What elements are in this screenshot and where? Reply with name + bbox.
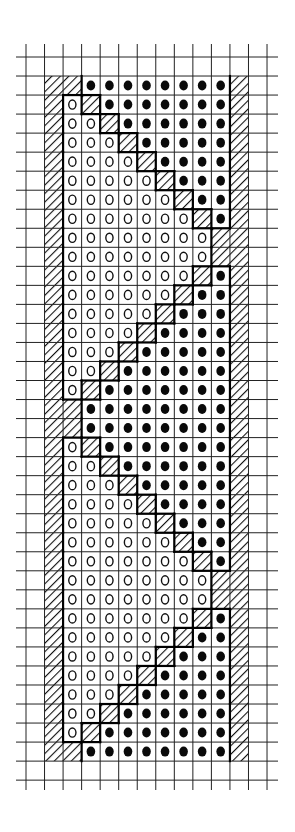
filled-dot-icon <box>179 309 188 319</box>
hatch-cell <box>156 647 175 666</box>
hatch-cell <box>45 133 64 152</box>
open-circle-icon <box>69 252 76 261</box>
hatch-cell <box>230 457 249 476</box>
hatch-cell <box>45 457 64 476</box>
filled-dot-icon <box>198 290 207 300</box>
open-circle-icon <box>106 157 113 166</box>
hatch-cell <box>230 685 249 704</box>
hatch-cell <box>119 685 138 704</box>
open-circle-icon <box>87 614 94 623</box>
filled-dot-icon <box>105 100 114 110</box>
open-circle-icon <box>143 595 150 604</box>
filled-dot-icon <box>216 747 225 757</box>
filled-dot-icon <box>142 347 151 357</box>
hatch-cell <box>193 209 212 228</box>
filled-dot-icon <box>198 328 207 338</box>
filled-dot-icon <box>124 747 133 757</box>
filled-dot-icon <box>161 81 170 91</box>
open-circle-icon <box>106 347 113 356</box>
filled-dot-icon <box>161 100 170 110</box>
filled-dot-icon <box>216 271 225 281</box>
open-circle-icon <box>143 271 150 280</box>
hatch-cell <box>119 133 138 152</box>
filled-dot-icon <box>142 366 151 376</box>
open-circle-icon <box>69 290 76 299</box>
filled-dot-icon <box>198 651 207 661</box>
hatch-cell <box>45 666 64 685</box>
open-circle-icon <box>106 500 113 509</box>
filled-dot-icon <box>179 176 188 186</box>
open-circle-icon <box>180 271 187 280</box>
filled-dot-icon <box>216 176 225 186</box>
filled-dot-icon <box>216 670 225 680</box>
hatch-cell <box>45 152 64 171</box>
open-circle-icon <box>69 195 76 204</box>
open-circle-icon <box>69 633 76 642</box>
hatch-cell <box>137 495 156 514</box>
hatch-cell <box>174 533 193 552</box>
hatch-cell <box>45 685 64 704</box>
open-circle-icon <box>199 595 206 604</box>
filled-dot-icon <box>179 518 188 528</box>
open-circle-icon <box>69 614 76 623</box>
filled-dot-icon <box>179 119 188 129</box>
open-circle-icon <box>124 233 131 242</box>
hatch-cell <box>100 114 119 133</box>
filled-dot-icon <box>87 423 96 433</box>
filled-dot-icon <box>198 100 207 110</box>
open-circle-icon <box>124 633 131 642</box>
filled-dot-icon <box>179 100 188 110</box>
filled-dot-icon <box>124 442 133 452</box>
open-circle-icon <box>106 690 113 699</box>
open-circle-icon <box>69 652 76 661</box>
hatch-cell <box>45 361 64 380</box>
hatch-cell <box>156 171 175 190</box>
open-circle-icon <box>69 347 76 356</box>
open-circle-icon <box>161 576 168 585</box>
open-circle-icon <box>87 671 94 680</box>
hatch-cell <box>230 533 249 552</box>
filled-dot-icon <box>161 690 170 700</box>
filled-dot-icon <box>161 499 170 509</box>
open-circle-icon <box>87 709 94 718</box>
hatch-cell <box>137 666 156 685</box>
hatch-cell <box>45 609 64 628</box>
open-circle-icon <box>143 633 150 642</box>
open-circle-icon <box>143 614 150 623</box>
hatch-cell <box>156 514 175 533</box>
filled-dot-icon <box>124 385 133 395</box>
open-circle-icon <box>180 214 187 223</box>
open-circle-icon <box>106 633 113 642</box>
open-circle-icon <box>106 328 113 337</box>
filled-dot-icon <box>87 747 96 757</box>
hatch-cell <box>137 323 156 342</box>
filled-dot-icon <box>216 690 225 700</box>
filled-dot-icon <box>142 138 151 148</box>
open-circle-icon <box>199 576 206 585</box>
open-circle-icon <box>106 576 113 585</box>
open-circle-icon <box>69 366 76 375</box>
filled-dot-icon <box>179 690 188 700</box>
open-circle-icon <box>69 576 76 585</box>
hatch-cell <box>230 590 249 609</box>
hatch-cell <box>63 742 82 761</box>
filled-dot-icon <box>179 499 188 509</box>
hatch-cell <box>45 419 64 438</box>
hatch-cell <box>211 228 230 247</box>
hatch-cell <box>230 361 249 380</box>
open-circle-icon <box>199 252 206 261</box>
open-circle-icon <box>124 576 131 585</box>
open-circle-icon <box>143 652 150 661</box>
filled-dot-icon <box>216 556 225 566</box>
open-circle-icon <box>106 195 113 204</box>
filled-dot-icon <box>161 709 170 719</box>
open-circle-icon <box>124 214 131 223</box>
filled-dot-icon <box>198 138 207 148</box>
open-circle-icon <box>180 233 187 242</box>
hatch-cell <box>45 400 64 419</box>
hatch-cell <box>82 438 101 457</box>
filled-dot-icon <box>198 499 207 509</box>
hatch-cell <box>45 704 64 723</box>
filled-dot-icon <box>124 100 133 110</box>
hatch-cell <box>156 304 175 323</box>
